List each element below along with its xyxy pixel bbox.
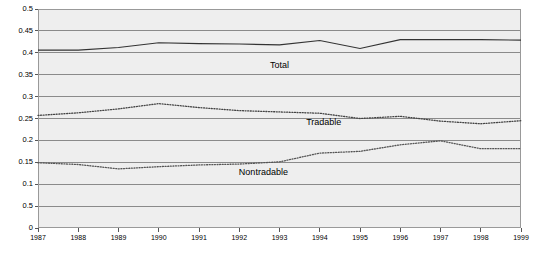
data-series: [38, 40, 521, 169]
chart-canvas: [0, 0, 535, 261]
series-line-tradable: [38, 104, 521, 124]
gridlines: [35, 9, 520, 228]
chart-container: 00.50.10.150.20.250.30.350.40.450.5 1987…: [0, 0, 535, 261]
x-axis-ticks: [38, 228, 521, 232]
series-line-nontradable: [38, 141, 521, 169]
series-line-total: [38, 40, 521, 51]
